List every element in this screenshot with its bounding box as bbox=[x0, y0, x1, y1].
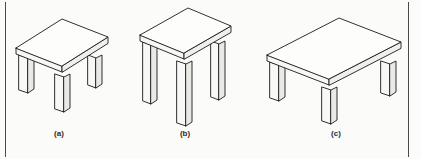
leg-back-right-side-face bbox=[96, 55, 102, 88]
tables-illustration: (a) (b) bbox=[0, 0, 421, 159]
leg-front-left-front-face bbox=[270, 62, 279, 101]
leg-front-right-side-face bbox=[331, 87, 337, 124]
leg-front-left-front-face bbox=[143, 42, 151, 104]
caption-b: (b) bbox=[180, 129, 191, 138]
leg-front-right-front-face bbox=[177, 61, 186, 126]
figure-panel: (a) (b) bbox=[0, 0, 421, 159]
leg-front-left-front-face bbox=[19, 55, 28, 93]
leg-back-right-front-face bbox=[381, 61, 390, 96]
leg-back-right-side-face bbox=[219, 41, 225, 100]
caption-c: (c) bbox=[331, 129, 341, 138]
leg-front-right-front-face bbox=[55, 74, 64, 112]
leg-front-right-side-face bbox=[186, 61, 192, 126]
leg-back-right-front-face bbox=[88, 55, 96, 88]
leg-front-right-front-face bbox=[322, 87, 331, 124]
leg-back-right-side-face bbox=[390, 61, 396, 96]
leg-front-right-side-face bbox=[64, 74, 70, 112]
leg-back-right-front-face bbox=[211, 41, 219, 100]
leg-front-left-side-face bbox=[151, 42, 157, 104]
caption-a: (a) bbox=[54, 129, 64, 138]
